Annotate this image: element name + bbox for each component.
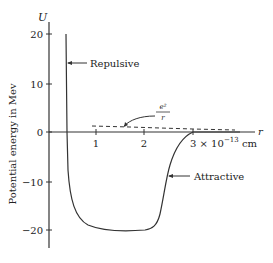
y-axis-label: Potential energy in Mev	[7, 83, 18, 205]
y-tick-20: 20	[30, 29, 43, 40]
y-tick-10: 10	[30, 79, 43, 90]
repulsive-label: Repulsive	[90, 58, 139, 69]
x-unit-cm: cm	[242, 138, 258, 149]
x-tick-2: 2	[141, 138, 147, 149]
coulomb-arrow	[124, 116, 155, 126]
coulomb-numerator: e²	[160, 103, 167, 111]
repulsive-arrowhead-icon	[67, 61, 72, 65]
potential-energy-chart: 20 10 0 −10 −20 1 2 3 × 10 −13 cm U r Po…	[0, 0, 273, 263]
coulomb-denominator: r	[161, 114, 165, 122]
attractive-label: Attractive	[193, 171, 244, 182]
attractive-arrowhead-icon	[168, 174, 173, 178]
x-tick-1: 1	[93, 138, 99, 149]
x-unit-exponent: −13	[224, 136, 239, 144]
y-tick-0: 0	[37, 127, 43, 138]
y-axis-symbol: U	[38, 11, 48, 24]
x-axis-symbol: r	[258, 126, 264, 137]
y-tick-minus20: −20	[22, 225, 43, 236]
coulomb-curve	[92, 126, 235, 130]
y-tick-minus10: −10	[22, 177, 43, 188]
x-tick-3: 3 × 10	[190, 138, 224, 149]
